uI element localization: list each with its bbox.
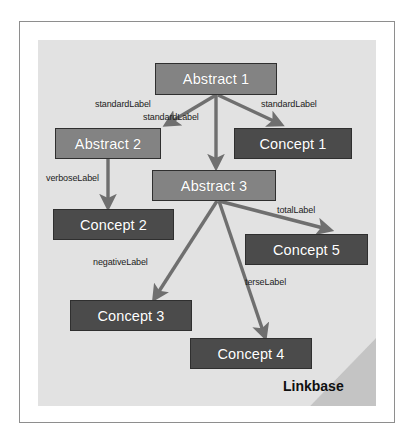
node-abstract-3[interactable]: Abstract 3 xyxy=(152,170,276,201)
node-concept-1[interactable]: Concept 1 xyxy=(234,128,352,159)
node-label: Concept 3 xyxy=(98,308,165,324)
node-concept-4[interactable]: Concept 4 xyxy=(190,338,312,369)
node-concept-2[interactable]: Concept 2 xyxy=(53,209,174,240)
node-abstract-2[interactable]: Abstract 2 xyxy=(55,128,161,159)
edge-label-verbose: verboseLabel xyxy=(46,173,99,183)
diagram-canvas: Abstract 1 Abstract 2 Concept 1 Abstract… xyxy=(0,0,414,445)
linkbase-caption: Linkbase xyxy=(283,378,344,394)
edge-label-total: totalLabel xyxy=(277,205,315,215)
edge-label-standard-concept1: standardLabel xyxy=(261,99,317,109)
edge-label-standard-abstract2: standardLabel xyxy=(95,99,151,109)
edge-abstract3-concept4 xyxy=(219,201,264,334)
node-concept-5[interactable]: Concept 5 xyxy=(245,234,368,265)
node-label: Concept 5 xyxy=(273,242,340,258)
node-label: Concept 2 xyxy=(80,217,147,233)
edge-label-terse: terseLabel xyxy=(245,277,286,287)
node-abstract-1[interactable]: Abstract 1 xyxy=(155,63,277,95)
edge-label-negative: negativeLabel xyxy=(93,257,148,267)
node-concept-3[interactable]: Concept 3 xyxy=(70,300,192,331)
node-label: Abstract 2 xyxy=(75,136,141,152)
node-label: Abstract 1 xyxy=(183,71,249,87)
edge-label-standard-abstract3: standardLabel xyxy=(143,112,199,122)
node-label: Concept 4 xyxy=(218,346,285,362)
node-label: Abstract 3 xyxy=(181,178,247,194)
node-label: Concept 1 xyxy=(260,136,327,152)
